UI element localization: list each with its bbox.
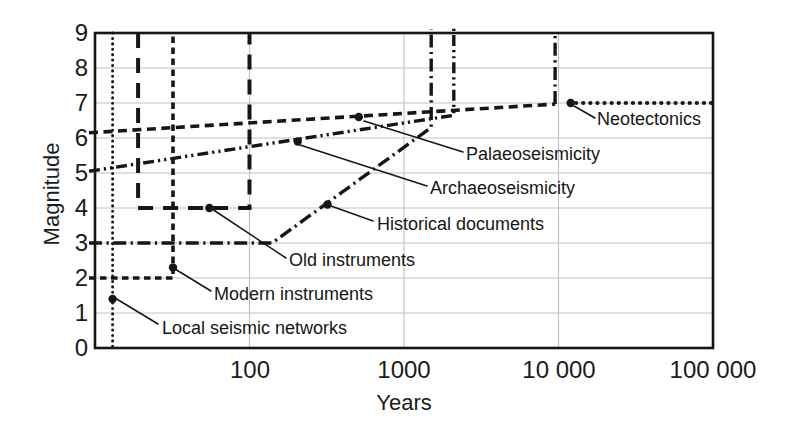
palaeoseismicity-marker-dot — [355, 113, 363, 121]
seismicity-completeness-chart: Magnitude Years 9876543210 100100010 000… — [0, 0, 785, 433]
historical-documents-line-1 — [89, 30, 431, 244]
leader-palaeoseismicity — [364, 121, 463, 152]
modern-instruments-line-1 — [89, 33, 173, 278]
plot-canvas — [0, 0, 785, 433]
leader-neotectonics — [574, 106, 595, 118]
old-instruments-marker-dot — [205, 204, 213, 212]
old-instruments-line-1 — [138, 33, 249, 208]
historical-documents-marker-dot — [323, 200, 331, 208]
leader-modern-instruments — [175, 269, 211, 291]
leader-local-seismic-networks — [115, 298, 158, 324]
leader-archaeoseismicity — [300, 145, 427, 186]
palaeoseismicity-line-1 — [89, 104, 555, 133]
